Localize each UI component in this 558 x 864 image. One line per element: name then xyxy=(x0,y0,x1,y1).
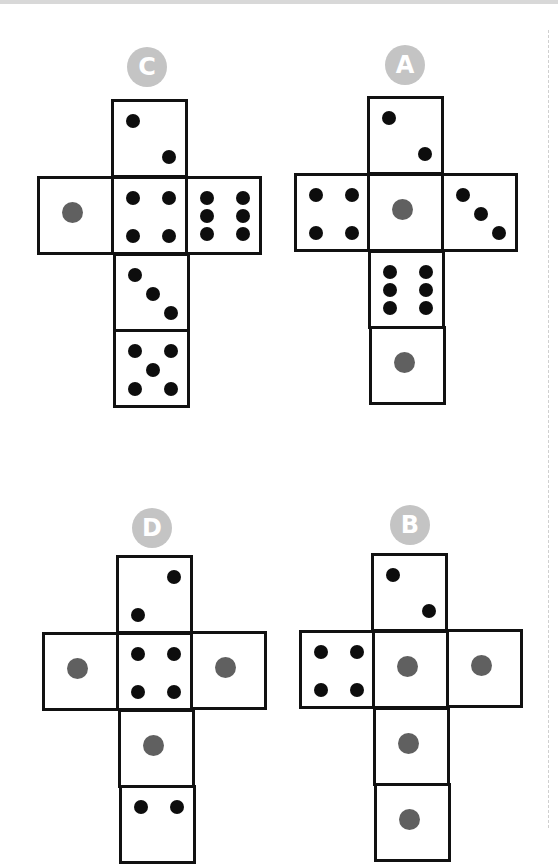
black-pip-icon xyxy=(350,683,364,697)
die-face-top xyxy=(371,553,448,632)
option-label-badge[interactable]: B xyxy=(390,505,430,545)
gray-pip-icon xyxy=(471,655,492,676)
black-pip-icon xyxy=(386,568,400,582)
gray-pip-icon xyxy=(397,656,418,677)
die-face-lower xyxy=(373,707,450,786)
die-face-center xyxy=(372,630,449,709)
die-face-right xyxy=(446,629,523,708)
black-pip-icon xyxy=(314,645,328,659)
black-pip-icon xyxy=(350,645,364,659)
die-face-left xyxy=(299,630,376,709)
die-face-bottom xyxy=(374,783,451,862)
gray-pip-icon xyxy=(398,733,419,754)
gray-pip-icon xyxy=(399,809,420,830)
black-pip-icon xyxy=(314,683,328,697)
black-pip-icon xyxy=(422,604,436,618)
